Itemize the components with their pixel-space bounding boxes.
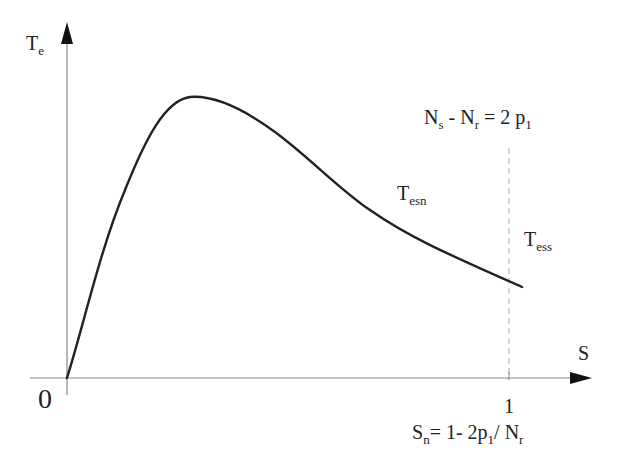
x-axis-arrow-icon — [570, 372, 592, 384]
curve-label-tess: Tess — [524, 229, 552, 249]
y-axis-label: Te — [26, 33, 44, 53]
x-tick-label-one: 1 — [504, 396, 514, 416]
curve-label-tesn: Tesn — [397, 183, 427, 203]
y-axis-arrow-icon — [61, 22, 73, 44]
slip-formula-label: Sn= 1- 2p1/ Nr — [412, 422, 523, 442]
origin-label: 0 — [38, 385, 52, 413]
x-axis-label: S — [578, 343, 589, 363]
condition-label: Ns - Nr = 2 p1 — [424, 107, 532, 127]
torque-curve — [67, 97, 522, 378]
